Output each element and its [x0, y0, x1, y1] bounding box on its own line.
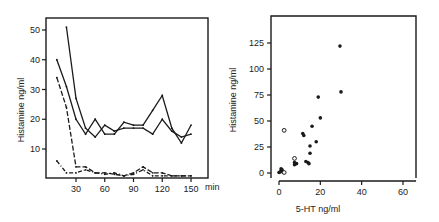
right-y-axis-label: Histamine ng/ml — [228, 68, 238, 133]
filled-point — [308, 144, 312, 148]
filled-point — [293, 161, 297, 165]
data-point — [161, 175, 163, 177]
data-point — [171, 175, 173, 177]
data-point — [66, 172, 68, 174]
right-x-axis-label: 5-HT ng/ml — [296, 204, 340, 214]
right-plot-frame — [271, 16, 416, 178]
open-point — [282, 128, 286, 132]
line-series — [66, 27, 191, 137]
data-point — [75, 166, 77, 168]
data-point — [171, 127, 173, 129]
y-tick-label: 100 — [249, 64, 264, 74]
left-x-axis-unit: min — [205, 182, 220, 192]
data-point — [123, 127, 125, 129]
filled-point — [279, 167, 283, 171]
data-point — [161, 95, 163, 97]
x-tick-label: 60 — [100, 184, 110, 194]
y-tick-label: 25 — [254, 142, 264, 152]
x-tick-label: 0 — [276, 187, 281, 197]
filled-point — [338, 44, 342, 48]
y-tick-label: 50 — [254, 116, 264, 126]
right-x-axis: 0204060 — [276, 181, 408, 197]
y-tick-label: 50 — [30, 25, 40, 35]
data-point — [75, 172, 77, 174]
data-point — [133, 173, 135, 175]
data-point — [142, 166, 144, 168]
data-point — [181, 136, 183, 138]
data-point — [75, 98, 77, 100]
data-point — [94, 172, 96, 174]
left-series — [56, 26, 192, 177]
data-point — [142, 127, 144, 129]
x-tick-label: 120 — [155, 184, 170, 194]
filled-point — [277, 171, 281, 175]
data-point — [190, 175, 192, 177]
data-point — [113, 130, 115, 132]
data-point — [133, 127, 135, 129]
filled-point — [310, 124, 314, 128]
left-line-chart: 1020304050 306090120150 Histamine ng/ml … — [16, 18, 220, 194]
y-tick-label: 20 — [30, 114, 40, 124]
filled-point — [302, 134, 306, 138]
data-point — [66, 86, 68, 88]
data-point — [56, 59, 58, 61]
data-point — [113, 133, 115, 135]
x-tick-label: 20 — [315, 187, 325, 197]
left-y-axis-label: Histamine ng/ml — [16, 78, 26, 143]
data-point — [104, 124, 106, 126]
data-point — [94, 118, 96, 120]
data-point — [152, 109, 154, 111]
data-point — [85, 127, 87, 129]
filled-point — [339, 90, 343, 94]
right-scatter-chart: 0255075100125 0204060 Histamine ng/ml 5-… — [228, 16, 416, 214]
data-point — [85, 133, 87, 135]
data-point — [142, 169, 144, 171]
data-point — [181, 175, 183, 177]
figure: 1020304050 306090120150 Histamine ng/ml … — [0, 0, 439, 222]
data-point — [152, 175, 154, 177]
data-point — [123, 121, 125, 123]
x-tick-label: 90 — [128, 184, 138, 194]
data-point — [85, 169, 87, 171]
y-tick-label: 10 — [30, 144, 40, 154]
y-tick-label: 0 — [259, 168, 264, 178]
x-tick-label: 30 — [71, 184, 81, 194]
filled-point — [307, 162, 311, 166]
data-point — [161, 172, 163, 174]
data-point — [94, 136, 96, 138]
filled-point — [308, 151, 312, 155]
left-x-axis: 306090120150 — [71, 178, 199, 194]
data-point — [123, 175, 125, 177]
data-point — [66, 26, 68, 28]
data-point — [66, 106, 68, 108]
filled-point — [319, 116, 323, 120]
data-point — [161, 118, 163, 120]
data-point — [152, 172, 154, 174]
right-y-axis: 0255075100125 — [249, 38, 271, 178]
data-point — [133, 124, 135, 126]
filled-point — [314, 140, 318, 144]
x-tick-label: 150 — [183, 184, 198, 194]
data-point — [104, 173, 106, 175]
data-point — [85, 166, 87, 168]
x-tick-label: 40 — [357, 187, 367, 197]
line-series — [57, 161, 191, 176]
data-point — [181, 142, 183, 144]
y-tick-label: 40 — [30, 55, 40, 65]
data-point — [152, 133, 154, 135]
right-series — [277, 44, 343, 174]
data-point — [142, 124, 144, 126]
data-point — [75, 118, 77, 120]
data-point — [56, 77, 58, 79]
data-point — [113, 172, 115, 174]
y-tick-label: 30 — [30, 85, 40, 95]
open-point — [293, 157, 297, 161]
filled-point — [316, 95, 320, 99]
x-tick-label: 60 — [398, 187, 408, 197]
left-y-axis: 1020304050 — [30, 25, 46, 154]
data-point — [56, 160, 58, 162]
data-point — [190, 124, 192, 126]
data-point — [104, 133, 106, 135]
data-point — [190, 133, 192, 135]
open-point — [282, 171, 286, 175]
